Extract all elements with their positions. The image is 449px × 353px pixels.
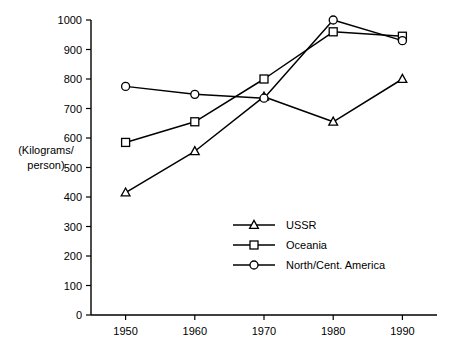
x-tick-label: 1960: [183, 325, 207, 337]
y-tick-label: 0: [76, 309, 82, 321]
legend-item-oceania[interactable]: Oceania: [233, 239, 328, 251]
data-point: [398, 37, 406, 45]
y-tick-label: 900: [64, 44, 82, 56]
series-ussr: [121, 74, 407, 195]
y-tick-label: 1000: [58, 14, 82, 26]
series-line: [126, 20, 403, 98]
y-tick-label: 400: [64, 191, 82, 203]
y-tick-label: 300: [64, 221, 82, 233]
x-tick-label: 1950: [113, 325, 137, 337]
series-north-cent-america: [122, 16, 407, 102]
data-point: [191, 118, 199, 126]
legend-marker-square-icon: [250, 241, 258, 249]
line-chart: 01002003004005006007008009001000 1950196…: [0, 0, 449, 353]
data-point: [122, 138, 130, 146]
y-tick-label: 800: [64, 73, 82, 85]
data-point: [329, 16, 337, 24]
series-group: [121, 16, 407, 196]
legend-label: Oceania: [286, 239, 328, 251]
series-oceania: [122, 28, 407, 147]
data-point: [191, 90, 199, 98]
y-axis-title-line1: (Kilograms/: [18, 144, 75, 156]
y-tick-label: 200: [64, 250, 82, 262]
chart-legend: USSROceaniaNorth/Cent. America: [233, 219, 386, 271]
data-point: [260, 94, 268, 102]
y-tick-label: 100: [64, 280, 82, 292]
x-tick-label: 1990: [390, 325, 414, 337]
y-axis-title-line2: person): [27, 159, 64, 171]
x-tick-label: 1970: [252, 325, 276, 337]
legend-label: North/Cent. America: [286, 259, 386, 271]
chart-page: 01002003004005006007008009001000 1950196…: [0, 0, 449, 353]
data-point: [121, 188, 130, 196]
x-tick-label: 1980: [321, 325, 345, 337]
data-point: [190, 147, 199, 155]
series-line: [126, 32, 403, 143]
data-point: [260, 75, 268, 83]
y-tick-label: 600: [64, 132, 82, 144]
data-point: [122, 82, 130, 90]
legend-marker-circle-icon: [250, 261, 258, 269]
legend-label: USSR: [286, 219, 317, 231]
legend-item-north-cent-america[interactable]: North/Cent. America: [233, 259, 386, 271]
legend-item-ussr[interactable]: USSR: [233, 219, 317, 231]
x-axis-tick-group: 19501960197019801990: [113, 315, 414, 337]
y-tick-label: 700: [64, 103, 82, 115]
data-point: [398, 74, 407, 82]
y-tick-label: 500: [64, 162, 82, 174]
data-point: [329, 28, 337, 36]
